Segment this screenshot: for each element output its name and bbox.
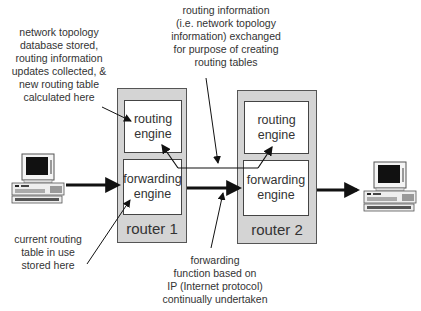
routing-exchange-arrow [162, 145, 178, 168]
annotation-pointer [206, 78, 218, 163]
routing-exchange-arrow [258, 147, 272, 168]
annotation-pointer [102, 107, 131, 121]
diagram-connectors [0, 0, 421, 311]
annotation-pointer [87, 200, 130, 264]
annotation-pointer [211, 193, 223, 248]
